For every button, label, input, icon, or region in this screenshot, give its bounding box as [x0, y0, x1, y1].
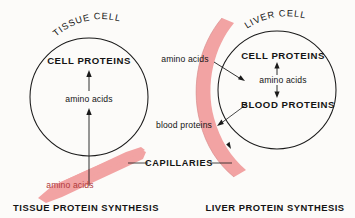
protein-synthesis-diagram: TISSUE CELL CELL PROTEINS amino acids am… — [0, 0, 355, 218]
diagram-canvas: TISSUE CELL CELL PROTEINS amino acids am… — [0, 0, 355, 218]
liver-amino-acids-label: amino acids — [259, 75, 307, 85]
liver-blood-proteins-label: BLOOD PROTEINS — [241, 99, 335, 110]
liver-capillary-blood-proteins-label: blood proteins — [156, 120, 212, 130]
liver-output-arrow-head — [217, 120, 224, 126]
tissue-cell-name: TISSUE CELL — [51, 11, 122, 38]
tissue-capillary-amino-acids-label: amino acids — [46, 180, 94, 190]
liver-uptake-arrow-head — [238, 75, 245, 81]
tissue-cell-proteins-label: CELL PROTEINS — [47, 55, 131, 66]
liver-uptake-arrow-shaft — [214, 62, 241, 79]
liver-blood-protein-arrow-head — [274, 92, 279, 99]
liver-cell-protein-arrow-head — [274, 62, 279, 69]
liver-capillary-amino-acids-label: amino acids — [161, 54, 209, 64]
tissue-panel-caption: TISSUE PROTEIN SYNTHESIS — [13, 202, 159, 213]
capillaries-label: CAPILLARIES — [145, 158, 213, 168]
tissue-uptake-arrow-head — [86, 108, 91, 115]
liver-cell-name: LIVER CELL — [243, 8, 308, 30]
tissue-synthesis-arrow-head — [86, 70, 91, 77]
liver-panel-caption: LIVER PROTEIN SYNTHESIS — [205, 202, 344, 213]
liver-cell-proteins-label: CELL PROTEINS — [241, 50, 325, 61]
liver-capillary-band — [196, 18, 246, 177]
tissue-amino-acids-label: amino acids — [65, 94, 113, 104]
